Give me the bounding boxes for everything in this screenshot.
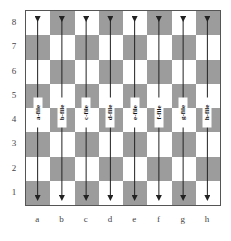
file-label: d [98,214,122,224]
rank-label: 6 [8,66,20,76]
rank-label: 8 [8,17,20,27]
square-a8 [26,11,50,35]
square-b3 [50,132,74,156]
file-label: f [146,214,170,224]
square-b2 [50,157,74,181]
square-e6 [123,60,147,84]
square-h3 [196,132,220,156]
file-arrow-label: g-file [179,97,188,127]
square-h8 [196,11,220,35]
rank-label: 4 [8,114,20,124]
square-h7 [196,35,220,59]
square-h6 [196,60,220,84]
square-a1 [26,181,50,205]
square-b7 [50,35,74,59]
square-a6 [26,60,50,84]
file-label: a [25,214,49,224]
file-arrow-label: h-file [203,97,212,127]
file-label: g [171,214,195,224]
square-h2 [196,157,220,181]
square-b8 [50,11,74,35]
square-f1 [147,181,171,205]
square-b6 [50,60,74,84]
square-e1 [123,181,147,205]
file-label: h [195,214,219,224]
square-d1 [99,181,123,205]
file-label: e [122,214,146,224]
rank-label: 2 [8,163,20,173]
square-a7 [26,35,50,59]
square-f3 [147,132,171,156]
square-c1 [75,181,99,205]
chess-board [25,10,221,206]
file-arrow-label: d-file [106,97,115,127]
square-g6 [172,60,196,84]
square-e2 [123,157,147,181]
square-h1 [196,181,220,205]
square-c8 [75,11,99,35]
square-e7 [123,35,147,59]
square-d2 [99,157,123,181]
square-c3 [75,132,99,156]
square-f2 [147,157,171,181]
square-a3 [26,132,50,156]
square-f8 [147,11,171,35]
square-c6 [75,60,99,84]
square-g7 [172,35,196,59]
square-d3 [99,132,123,156]
file-arrow-label: f-file [154,97,163,127]
square-e8 [123,11,147,35]
rank-label: 5 [8,90,20,100]
square-d7 [99,35,123,59]
square-f6 [147,60,171,84]
square-f7 [147,35,171,59]
square-a2 [26,157,50,181]
file-arrow-label: e-file [130,97,139,127]
square-c2 [75,157,99,181]
rank-label: 1 [8,187,20,197]
file-arrow-label: b-file [57,97,66,127]
file-arrow-label: a-file [33,97,42,127]
square-d6 [99,60,123,84]
square-e3 [123,132,147,156]
file-arrow-label: c-file [82,97,91,127]
square-g2 [172,157,196,181]
square-d8 [99,11,123,35]
square-g1 [172,181,196,205]
square-b1 [50,181,74,205]
rank-label: 7 [8,41,20,51]
square-g8 [172,11,196,35]
file-label: b [49,214,73,224]
square-c7 [75,35,99,59]
file-label: c [74,214,98,224]
square-g3 [172,132,196,156]
rank-label: 3 [8,138,20,148]
